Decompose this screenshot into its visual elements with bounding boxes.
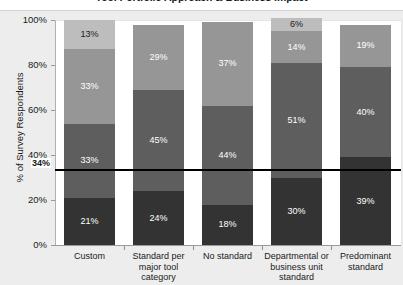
bar-segment-value: 14% [287, 43, 305, 52]
bar-segment[interactable]: 14% [271, 31, 322, 63]
y-tick-label-100: 100% [13, 14, 47, 25]
bar-segment[interactable]: 45% [133, 90, 184, 191]
bar-segment[interactable]: 6% [271, 18, 322, 32]
bar-segment[interactable]: 33% [64, 49, 115, 123]
x-axis-category-label: Standard per major tool category [126, 251, 192, 283]
reference-line-label: 34% [31, 158, 51, 168]
x-tick-mark [262, 246, 263, 250]
bar-stack: 24%45%29% [133, 25, 184, 246]
bar-stack: 21%33%33%13% [64, 20, 115, 245]
x-tick-mark [331, 246, 332, 250]
bar-segment-value: 33% [80, 82, 98, 91]
bar-segment[interactable]: 44% [202, 106, 253, 205]
bar-segment-value: 13% [80, 30, 98, 39]
bar-segment-value: 18% [218, 220, 236, 229]
x-axis-category-label: Predominant standard [333, 251, 399, 272]
y-tick-label-60: 60% [13, 104, 47, 115]
bar-segment-value: 6% [290, 20, 303, 29]
bar-stack: 18%44%37% [202, 22, 253, 245]
bar-segment-value: 39% [356, 197, 374, 206]
bar-column[interactable]: 21%33%33%13% [64, 20, 115, 245]
bar-segment[interactable]: 51% [271, 63, 322, 178]
bar-segment-value: 33% [80, 156, 98, 165]
x-tick-mark [193, 246, 194, 250]
x-axis-category-label: Custom [57, 251, 123, 262]
x-tick-mark [124, 246, 125, 250]
bar-segment-value: 19% [356, 41, 374, 50]
x-axis-line [55, 245, 401, 246]
reference-line [55, 169, 401, 171]
bar-segment-value: 37% [218, 59, 236, 68]
bar-segment-value: 24% [149, 214, 167, 223]
bar-segment[interactable]: 33% [64, 124, 115, 198]
bar-segment-value: 29% [149, 53, 167, 62]
bar-stack: 39%40%19% [340, 25, 391, 246]
bar-segment[interactable]: 21% [64, 198, 115, 245]
bar-column[interactable]: 18%44%37% [202, 20, 253, 245]
bar-segment[interactable]: 13% [64, 20, 115, 49]
bar-segment[interactable]: 30% [271, 178, 322, 246]
chart-title: Tool Portfolio Approach & Business Impac… [0, 0, 403, 3]
bar-column[interactable]: 39%40%19% [340, 20, 391, 245]
bar-stack: 30%51%14%6% [271, 18, 322, 245]
y-tick-label-0: 0% [13, 239, 47, 250]
y-tick-label-20: 20% [13, 194, 47, 205]
bar-segment-value: 21% [80, 217, 98, 226]
bar-segment[interactable]: 18% [202, 205, 253, 246]
bar-segment[interactable]: 37% [202, 22, 253, 105]
bar-segment[interactable]: 40% [340, 67, 391, 157]
bar-segment[interactable]: 24% [133, 191, 184, 245]
bar-segment[interactable]: 19% [340, 25, 391, 68]
x-axis-category-label: No standard [195, 251, 261, 262]
x-axis-category-label: Departmental or business unit standard [264, 251, 330, 283]
bar-segment-value: 51% [287, 116, 305, 125]
bar-column[interactable]: 30%51%14%6% [271, 20, 322, 245]
bar-segment-value: 40% [356, 108, 374, 117]
bar-segment[interactable]: 29% [133, 25, 184, 90]
bar-segment-value: 45% [149, 136, 167, 145]
bar-column[interactable]: 24%45%29% [133, 20, 184, 245]
y-tick-label-80: 80% [13, 59, 47, 70]
bar-segment-value: 44% [218, 151, 236, 160]
bar-segment-value: 30% [287, 207, 305, 216]
